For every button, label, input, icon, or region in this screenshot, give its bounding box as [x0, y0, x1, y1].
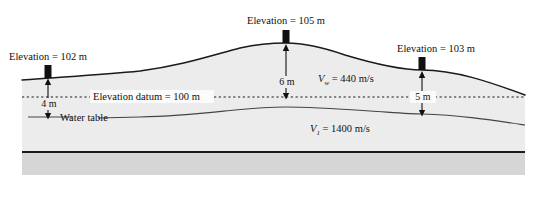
- elevation-label-crest: Elevation = 105 m: [247, 16, 325, 27]
- depth-label-left: 4 m: [41, 99, 56, 109]
- velocity-symbol-layer-1: V1: [310, 123, 320, 134]
- survey-marker-crest: [283, 30, 290, 43]
- elevation-datum-label: Elevation datum = 100 m: [93, 92, 200, 103]
- survey-marker-right: [419, 57, 426, 70]
- velocity-label-weathering-layer: Vw = 440 m/s: [318, 74, 374, 87]
- velocity-symbol-weathering: Vw: [318, 73, 329, 84]
- depth-label-crest: 6 m: [279, 77, 294, 87]
- elevation-label-left: Elevation = 102 m: [9, 52, 87, 63]
- bedrock-fill: [22, 152, 525, 175]
- velocity-value-weathering: = 440 m/s: [332, 73, 374, 84]
- elevation-label-right: Elevation = 103 m: [397, 44, 475, 55]
- survey-marker-left: [45, 65, 52, 78]
- velocity-value-layer-1: = 1400 m/s: [323, 123, 370, 134]
- depth-label-right: 5 m: [415, 92, 430, 102]
- cross-section-drawing: [0, 0, 547, 198]
- water-table-label: Water table: [60, 113, 108, 124]
- geologic-cross-section-figure: Elevation = 102 m Elevation = 105 m Elev…: [0, 0, 547, 198]
- velocity-label-layer-1: V1 = 1400 m/s: [310, 124, 370, 137]
